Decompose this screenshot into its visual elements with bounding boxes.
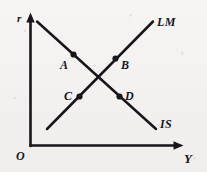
point-a-label: A xyxy=(60,59,68,71)
point-d-label: D xyxy=(125,90,134,102)
vertical-axis-arrow-icon xyxy=(26,13,34,23)
point-b-dot xyxy=(112,55,118,61)
point-b-label: B xyxy=(121,59,129,71)
horizontal-axis-label: Y xyxy=(184,152,192,165)
vertical-axis xyxy=(26,13,34,147)
lm-curve-label: LM xyxy=(157,16,176,28)
horizontal-axis xyxy=(31,141,184,149)
vertical-axis-label: r xyxy=(17,13,21,24)
horizontal-axis-arrow-icon xyxy=(174,141,184,149)
point-d-dot xyxy=(116,93,122,99)
origin-label: O xyxy=(16,150,25,162)
is-lm-figure: r Y O LM IS A B C D xyxy=(0,0,207,172)
is-curve-label: IS xyxy=(160,118,172,130)
point-c-dot xyxy=(76,93,82,99)
point-a-dot xyxy=(70,51,76,57)
point-c-label: C xyxy=(64,90,72,102)
